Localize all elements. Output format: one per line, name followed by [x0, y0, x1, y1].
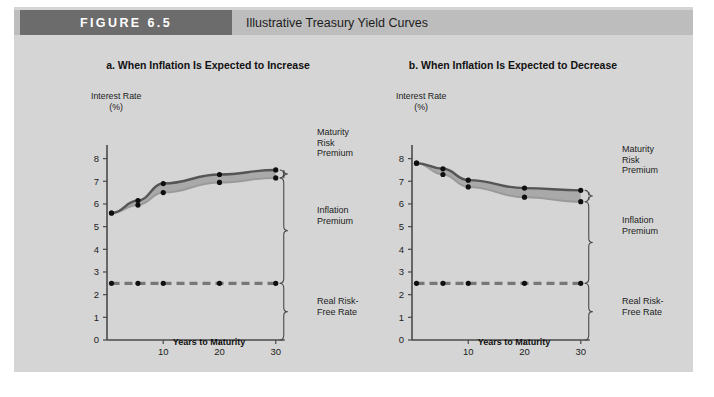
bracket-line-1: Maturity: [317, 127, 353, 138]
bracket-line-1: Maturity: [622, 144, 658, 155]
x-tick-label: 30: [575, 346, 586, 357]
y-tick-label: 8: [94, 153, 99, 164]
data-point-inflation: [161, 190, 166, 195]
x-tick-label: 30: [270, 346, 281, 357]
data-point-nominal: [466, 178, 471, 183]
panel-b-bracket-maturity-risk-premium: Maturity Risk Premium: [622, 144, 658, 176]
data-point-real-rate: [414, 281, 419, 286]
y-tick-label: 3: [94, 266, 99, 277]
panel-a-x-axis-title: Years to Maturity: [109, 337, 309, 347]
data-point-inflation: [273, 175, 278, 180]
figure-title: Illustrative Treasury Yield Curves: [246, 10, 428, 35]
x-tick-label: 10: [463, 346, 474, 357]
bracket-line-3: Premium: [317, 148, 353, 159]
figure-number-tag: FIGURE 6.5: [20, 10, 232, 35]
y-tick-label: 0: [399, 334, 404, 345]
data-point-real-rate: [273, 281, 278, 286]
y-tick-label: 6: [399, 198, 404, 209]
y-tick-label: 1: [94, 312, 99, 323]
data-point-real-rate: [161, 281, 166, 286]
panel-b-x-axis-title: Years to Maturity: [414, 337, 614, 347]
y-tick-label: 2: [94, 289, 99, 300]
data-point-inflation: [522, 195, 527, 200]
panel-b-bracket-real-risk-free-rate: Real Risk- Free Rate: [622, 296, 664, 317]
panel-a-bracket-inflation-premium: Inflation Premium: [317, 205, 353, 226]
panel-a-bracket-real-risk-free-rate: Real Risk- Free Rate: [317, 296, 359, 317]
bracket-line-1: Inflation: [622, 215, 658, 226]
y-tick-label: 4: [399, 244, 404, 255]
data-point-real-rate: [522, 281, 527, 286]
panel-b-plot: 012345678102030: [374, 47, 704, 367]
data-point-inflation: [578, 199, 583, 204]
bracket-line-1: Inflation: [317, 205, 353, 216]
bracket-maturity-risk-premium: [280, 170, 288, 178]
y-tick-label: 1: [399, 312, 404, 323]
data-point-nominal: [273, 167, 278, 172]
data-point-inflation: [135, 202, 140, 207]
data-point-nominal: [161, 181, 166, 186]
y-tick-label: 2: [399, 289, 404, 300]
data-point-real-rate: [135, 281, 140, 286]
data-point-nominal: [440, 166, 445, 171]
data-point-inflation: [414, 161, 419, 166]
data-point-nominal: [578, 188, 583, 193]
data-point-real-rate: [466, 281, 471, 286]
bracket-maturity-risk-premium: [585, 190, 593, 201]
y-tick-label: 5: [94, 221, 99, 232]
bracket-line-2: Free Rate: [622, 307, 664, 318]
bracket-line-2: Premium: [622, 226, 658, 237]
x-tick-label: 20: [214, 346, 225, 357]
bracket-real-risk-free-rate: [280, 283, 288, 340]
y-tick-label: 4: [94, 244, 99, 255]
data-point-nominal: [217, 172, 222, 177]
data-point-real-rate: [578, 281, 583, 286]
bracket-line-2: Free Rate: [317, 307, 359, 318]
data-point-inflation: [466, 184, 471, 189]
data-point-nominal: [135, 198, 140, 203]
data-point-real-rate: [217, 281, 222, 286]
bracket-line-2: Risk: [622, 155, 658, 166]
x-tick-label: 10: [158, 346, 169, 357]
bracket-line-3: Premium: [622, 165, 658, 176]
bracket-inflation-premium: [585, 202, 593, 284]
panel-b-bracket-inflation-premium: Inflation Premium: [622, 215, 658, 236]
y-tick-label: 0: [94, 334, 99, 345]
data-point-real-rate: [440, 281, 445, 286]
chart-panel-b: b. When Inflation Is Expected to Decreas…: [374, 47, 704, 367]
figure-container: FIGURE 6.5 Illustrative Treasury Yield C…: [14, 7, 693, 372]
bracket-inflation-premium: [280, 178, 288, 283]
data-point-nominal: [522, 185, 527, 190]
data-point-inflation: [217, 180, 222, 185]
y-tick-label: 3: [399, 266, 404, 277]
bracket-line-1: Real Risk-: [317, 296, 359, 307]
bracket-line-1: Real Risk-: [622, 296, 664, 307]
y-tick-label: 8: [399, 153, 404, 164]
data-point-inflation: [109, 210, 114, 215]
bracket-line-2: Premium: [317, 216, 353, 227]
data-point-inflation: [440, 172, 445, 177]
y-tick-label: 7: [399, 176, 404, 187]
panel-a-bracket-maturity-risk-premium: Maturity Risk Premium: [317, 127, 353, 159]
y-tick-label: 6: [94, 198, 99, 209]
data-point-real-rate: [109, 281, 114, 286]
y-tick-label: 7: [94, 176, 99, 187]
x-tick-label: 20: [519, 346, 530, 357]
bracket-real-risk-free-rate: [585, 283, 593, 340]
bracket-line-2: Risk: [317, 138, 353, 149]
y-tick-label: 5: [399, 221, 404, 232]
chart-panel-a: a. When Inflation Is Expected to Increas…: [69, 47, 399, 367]
